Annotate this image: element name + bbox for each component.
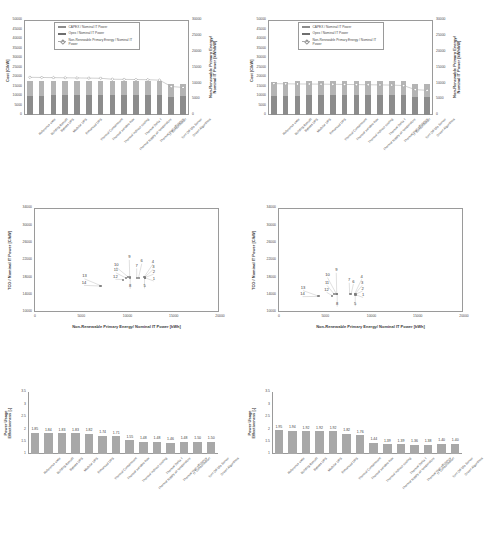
scatter-point-label: 13	[301, 286, 306, 290]
y-axis-label-right: Non-Renewable Primary Energy/ Nominal IT…	[209, 34, 217, 100]
scatter-point	[138, 277, 140, 279]
y-axis-tick-left: 10000	[245, 94, 266, 97]
chart-combo-right: 0500010000150002000025000300003500040000…	[244, 0, 488, 190]
chart-legend: CAPEX / Nominal IT PowerOpex / Nominal I…	[298, 22, 384, 50]
y-axis-tick-right: 15000	[436, 66, 445, 69]
scatter-point-label: 8	[336, 302, 338, 306]
bar-value-label: 1.55	[126, 436, 133, 440]
bar-group	[272, 392, 462, 454]
bar	[166, 443, 175, 454]
y-axis-tick-left: 35000	[245, 47, 266, 50]
y-axis-tick: 2.5	[14, 415, 26, 418]
scatter-point-label: 11	[325, 281, 329, 285]
scatter-point-label: 3	[152, 265, 154, 269]
bar-value-label: 1.82	[343, 429, 350, 433]
bar	[139, 442, 148, 454]
scatter-point-label: 7	[348, 278, 350, 282]
bar-value-label: 1.39	[384, 440, 391, 444]
bar-value-label: 1.92	[303, 427, 310, 431]
scatter-point-label: 14	[300, 292, 305, 296]
y-axis-tick-left: 40000	[245, 37, 266, 40]
bar	[153, 442, 162, 454]
y-axis-tick-left: 5000	[245, 104, 266, 107]
bar	[369, 443, 378, 454]
bar	[112, 436, 121, 454]
y-axis-tick-left: 40000	[1, 37, 22, 40]
legend-item-energy: Non-Renewable Primary Energy / Nominal I…	[58, 39, 136, 46]
legend-label: Non-Renewable Primary Energy / Nominal I…	[69, 39, 137, 46]
scatter-point-label: 2	[361, 287, 363, 291]
scatter-point-label: 5	[354, 302, 356, 306]
chart-combo-left: 0500010000150002000025000300003500040000…	[0, 0, 244, 190]
bar	[424, 445, 433, 454]
legend-swatch	[58, 40, 66, 42]
scatter-point	[136, 277, 138, 279]
scatter-point	[333, 293, 335, 295]
bar	[207, 442, 216, 454]
y-axis-tick-left: 45000	[1, 28, 22, 31]
legend-item-opex: Opex / Nominal IT Power	[302, 32, 380, 36]
y-axis-tick-right: 30000	[436, 18, 445, 21]
y-axis-tick: 1	[258, 452, 270, 455]
scatter-point	[317, 295, 319, 297]
bar	[288, 431, 297, 454]
bar	[58, 433, 67, 454]
bar	[383, 444, 392, 454]
y-axis-tick: 2	[14, 428, 26, 431]
y-axis-tick-right: 0	[436, 113, 438, 116]
legend-swatch	[302, 33, 310, 35]
bar	[302, 431, 311, 454]
bar	[44, 433, 53, 454]
bar	[342, 434, 351, 454]
scatter-point-label: 4	[152, 260, 154, 264]
bar	[85, 434, 94, 454]
legend-label: CAPEX / Nominal IT Power	[313, 26, 352, 30]
y-axis-label-right: Non-Renewable Primary Energy/ Nominal IT…	[453, 34, 461, 100]
legend-swatch	[302, 40, 310, 42]
bar	[125, 440, 134, 454]
bar	[71, 433, 80, 454]
bar	[275, 430, 284, 454]
scatter-point	[349, 293, 351, 295]
bar-value-label: 1.40	[438, 439, 445, 443]
scatter-point-label: 4	[361, 275, 363, 279]
y-axis-tick-left: 0	[245, 113, 266, 116]
bar-value-label: 1.50	[208, 437, 215, 441]
legend-swatch	[58, 26, 66, 28]
scatter-point-label: 3	[361, 281, 363, 285]
y-axis-label-left: Cost [C/kW]	[6, 59, 10, 82]
bar	[180, 442, 189, 454]
y-axis-tick-right: 25000	[192, 34, 201, 37]
y-axis-tick-right: 0	[192, 113, 194, 116]
scatter-point	[335, 293, 337, 295]
bar-value-label: 1.83	[72, 429, 79, 433]
bar-value-label: 1.40	[452, 439, 459, 443]
y-axis-tick-left: 45000	[245, 28, 266, 31]
y-axis-tick-left: 35000	[1, 47, 22, 50]
y-axis-tick-left: 15000	[245, 85, 266, 88]
scatter-point	[331, 295, 333, 297]
bar	[356, 435, 365, 454]
bar-value-label: 1.76	[357, 431, 364, 435]
scatter-point-label: 9	[128, 255, 130, 259]
y-axis-tick-right: 5000	[436, 97, 444, 100]
bar-value-label: 1.95	[275, 426, 282, 430]
chart-scatter-left: 1000014000180002200026000300003400005000…	[0, 190, 244, 380]
y-axis-tick-left: 50000	[245, 18, 266, 21]
scatter-point-label: 10	[325, 273, 330, 277]
y-axis-tick-left: 15000	[1, 85, 22, 88]
bar-value-label: 1.48	[140, 437, 147, 441]
y-axis-tick-right: 15000	[192, 66, 201, 69]
bar-value-label: 1.48	[154, 437, 161, 441]
scatter-point-label: 12	[113, 275, 118, 279]
y-axis-tick: 1.5	[14, 440, 26, 443]
scatter-point-label: 7	[136, 264, 138, 268]
bar	[410, 445, 419, 454]
legend-item-opex: Opex / Nominal IT Power	[58, 32, 136, 36]
y-axis-tick-left: 10000	[1, 94, 22, 97]
y-axis-tick-right: 20000	[436, 50, 445, 53]
legend-item-capex: CAPEX / Nominal IT Power	[302, 26, 380, 30]
bar	[451, 444, 460, 454]
y-axis-tick-left: 0	[1, 113, 22, 116]
scatter-point-label: 11	[114, 268, 118, 272]
